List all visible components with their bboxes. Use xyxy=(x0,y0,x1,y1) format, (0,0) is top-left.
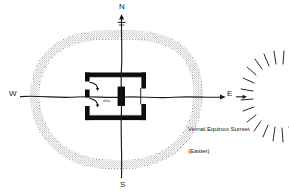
cardinal-label-south: S xyxy=(120,180,126,189)
east-arrow-icon xyxy=(220,95,226,100)
sunset-annotation: Vernal Equinox Sunset (Easter) xyxy=(188,111,250,168)
sunset-direction-arrow-icon xyxy=(236,95,247,99)
enclosure-ring xyxy=(35,35,198,165)
cardinal-label-north: N xyxy=(119,2,125,11)
cardinal-label-west: W xyxy=(9,89,17,98)
door-swing-arrow-icon xyxy=(90,82,98,106)
cardinal-label-east: E xyxy=(227,89,233,98)
diagram-canvas: N S W E Vernal Equinox Sunset (Easter) a… xyxy=(0,0,289,196)
sunset-annotation-line-1: Vernal Equinox Sunset xyxy=(188,125,250,132)
sunset-annotation-line-2: (Easter) xyxy=(188,147,250,154)
altar-label: altar xyxy=(103,99,111,103)
